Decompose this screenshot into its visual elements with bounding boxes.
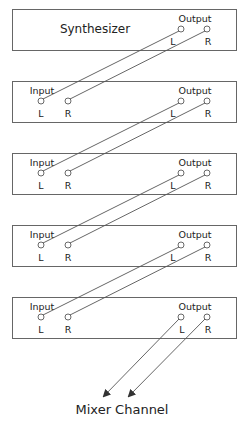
effect-box-1: Input L R Output L R — [13, 82, 237, 123]
output-label: Output — [179, 229, 212, 240]
output-left-label: L — [170, 252, 176, 263]
input-left-label: L — [38, 108, 44, 119]
synthesizer-label: Synthesizer — [60, 22, 130, 36]
effect-box-2: Input L R Output L R — [13, 154, 237, 195]
cable-left-to-mixer — [104, 319, 179, 396]
cable-left-4 — [43, 247, 179, 315]
cable-left-3 — [43, 175, 179, 243]
output-label: Output — [179, 301, 212, 312]
input-label: Input — [30, 229, 55, 240]
output-right-label: R — [205, 180, 212, 191]
synthesizer-box: Synthesizer Output L R — [13, 10, 237, 51]
input-label: Input — [30, 301, 55, 312]
output-right-label: R — [205, 252, 212, 263]
output-left-label: L — [170, 180, 176, 191]
output-label: Output — [179, 13, 212, 24]
output-label: Output — [179, 85, 212, 96]
output-right-label: R — [205, 108, 212, 119]
input-left-label: L — [38, 180, 44, 191]
output-right-label: R — [205, 36, 212, 47]
input-right-label: R — [65, 252, 72, 263]
cable-left-1 — [43, 31, 179, 99]
signal-chain-diagram: Synthesizer Output L R Input L R Output … — [0, 0, 244, 422]
effect-box-4: Input L R Output L R — [13, 298, 237, 339]
output-left-label: L — [170, 108, 176, 119]
input-right-label: R — [65, 324, 72, 335]
input-right-label: R — [65, 108, 72, 119]
output-left-label: L — [170, 36, 176, 47]
input-label: Input — [30, 157, 55, 168]
input-left-label: L — [38, 324, 44, 335]
output-right-label: R — [205, 324, 212, 335]
output-label: Output — [179, 157, 212, 168]
output-left-label: L — [179, 324, 185, 335]
cable-left-2 — [43, 103, 179, 171]
input-label: Input — [30, 85, 55, 96]
effect-box-3: Input L R Output L R — [13, 226, 237, 267]
input-right-label: R — [65, 180, 72, 191]
cable-right-to-mixer — [129, 319, 205, 396]
mixer-channel-label: Mixer Channel — [76, 402, 169, 417]
input-left-label: L — [38, 252, 44, 263]
